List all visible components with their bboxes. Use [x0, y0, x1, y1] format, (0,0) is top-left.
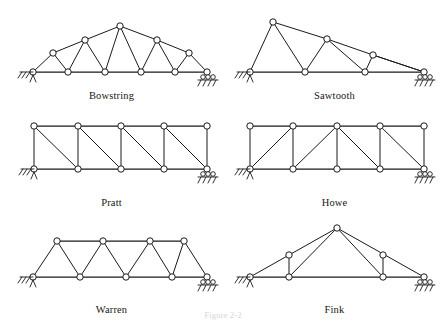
bowstring-roller-support-icon: [198, 75, 218, 86]
fink-members: [250, 228, 424, 277]
pratt-roller-support-icon: [198, 172, 218, 183]
sawtooth-members: [250, 22, 424, 72]
fink-roller-support-icon: [415, 280, 435, 291]
truss-diagram-pratt: Pratt: [0, 107, 223, 214]
truss-label-pratt: Pratt: [0, 198, 223, 209]
truss-label-sawtooth: Sawtooth: [223, 91, 446, 102]
truss-diagram-howe: Howe: [223, 107, 446, 214]
sawtooth-nodes: [247, 19, 427, 75]
fink-nodes: [247, 225, 427, 280]
truss-figure-grid: Bowstring: [0, 0, 446, 321]
truss-diagram-sawtooth: Sawtooth: [223, 0, 446, 107]
sawtooth-roller-support-icon: [415, 75, 435, 86]
howe-roller-support-icon: [415, 172, 435, 183]
truss-label-bowstring: Bowstring: [0, 91, 223, 102]
bowstring-members: [33, 26, 207, 72]
warren-roller-support-icon: [198, 280, 218, 291]
warren-members: [33, 241, 207, 277]
figure-caption: Figure 2-2: [0, 309, 446, 321]
warren-nodes: [30, 238, 210, 280]
truss-diagram-warren: Warren: [0, 214, 223, 321]
truss-diagram-bowstring: Bowstring: [0, 0, 223, 107]
pratt-members: [34, 126, 207, 169]
truss-label-howe: Howe: [223, 198, 446, 209]
howe-members: [250, 126, 424, 169]
bowstring-nodes: [30, 23, 210, 75]
truss-diagram-fink: Fink: [223, 214, 446, 321]
